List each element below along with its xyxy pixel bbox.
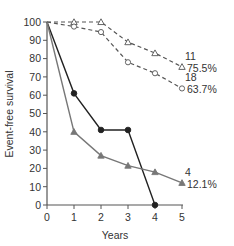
survival-chart: 0102030405060708090100012345 1175.5%1863… xyxy=(0,0,234,246)
end-label-percent: 63.7% xyxy=(187,83,217,95)
series-solid-grey-triangle xyxy=(47,22,185,185)
x-tick-label: 0 xyxy=(44,211,50,223)
series-dashed-triangle xyxy=(47,19,185,70)
y-tick-label: 10 xyxy=(29,181,41,193)
series-line xyxy=(47,22,155,205)
y-tick-label: 60 xyxy=(29,89,41,101)
y-tick-label: 100 xyxy=(23,16,41,28)
x-tick-label: 5 xyxy=(179,211,185,223)
data-point-circle xyxy=(71,91,77,97)
x-axis-label: Years xyxy=(102,229,128,241)
y-axis-label: Event-free survival xyxy=(3,71,15,158)
series-layer xyxy=(47,19,185,208)
y-tick-label: 50 xyxy=(29,107,41,119)
data-point-circle xyxy=(125,60,130,65)
data-point-circle xyxy=(179,86,184,91)
y-tick-label: 70 xyxy=(29,71,41,83)
data-point-circle xyxy=(152,202,158,208)
y-tick-label: 0 xyxy=(35,199,41,211)
data-point-triangle xyxy=(71,129,77,135)
data-point-triangle xyxy=(179,64,185,70)
data-point-circle xyxy=(152,71,157,76)
y-tick-label: 30 xyxy=(29,144,41,156)
series-line xyxy=(47,22,182,67)
end-label-count: 4 xyxy=(185,166,191,178)
series-line xyxy=(47,22,182,183)
chart-canvas: 0102030405060708090100012345 1175.5%1863… xyxy=(0,0,234,246)
data-point-circle xyxy=(125,127,131,133)
end-label-count: 18 xyxy=(185,71,197,83)
y-tick-label: 40 xyxy=(29,126,41,138)
data-point-circle xyxy=(71,24,76,29)
end-label-percent: 12.1% xyxy=(187,178,217,190)
data-point-circle xyxy=(98,29,103,34)
x-tick-label: 2 xyxy=(98,211,104,223)
y-tick-label: 20 xyxy=(29,162,41,174)
y-tick-label: 90 xyxy=(29,34,41,46)
series-solid-black-circle xyxy=(47,22,158,208)
end-label-count: 11 xyxy=(185,50,196,62)
end-annotations: 1175.5%1863.7%412.1% xyxy=(185,50,217,190)
x-tick-label: 4 xyxy=(152,211,158,223)
data-point-circle xyxy=(98,127,104,133)
x-tick-label: 1 xyxy=(71,211,77,223)
y-tick-label: 80 xyxy=(29,52,41,64)
x-tick-label: 3 xyxy=(125,211,131,223)
axes: 0102030405060708090100012345 xyxy=(23,16,185,223)
